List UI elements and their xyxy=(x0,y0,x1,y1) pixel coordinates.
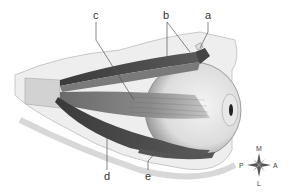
optic-nerve xyxy=(25,78,60,108)
compass-m: M xyxy=(256,145,262,152)
label-d: d xyxy=(104,171,110,182)
label-b: b xyxy=(163,10,169,21)
eye-illustration xyxy=(0,0,294,196)
label-a: a xyxy=(205,10,211,21)
eye-anatomy-diagram: c b a d e M A L P xyxy=(0,0,294,196)
compass-a: A xyxy=(273,162,278,169)
pupil xyxy=(229,104,233,116)
label-c: c xyxy=(93,10,99,21)
compass-rose xyxy=(247,153,271,177)
compass-p: P xyxy=(239,162,244,169)
label-e: e xyxy=(145,171,151,182)
compass-l: L xyxy=(257,180,261,187)
